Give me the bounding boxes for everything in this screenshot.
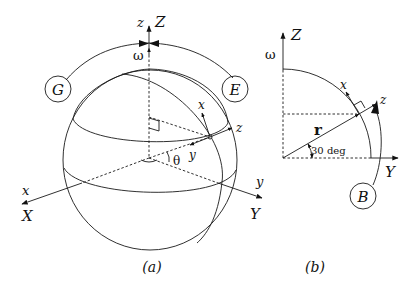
label-Y-b: Y bbox=[385, 163, 397, 181]
label-30deg: 30 deg bbox=[311, 145, 346, 156]
label-G: G bbox=[52, 81, 64, 99]
label-Y: Y bbox=[250, 205, 262, 223]
label-x-body: x bbox=[22, 183, 30, 198]
panel-a-sphere-diagram: G E z Z ω x z y θ x X bbox=[21, 13, 264, 275]
rotation-arc bbox=[66, 43, 233, 80]
Y-axis-dashed bbox=[149, 158, 218, 183]
label-Z-top: Z bbox=[154, 13, 166, 31]
X-axis-arrow bbox=[22, 183, 82, 204]
circle-B: B bbox=[350, 183, 376, 209]
panel-b-quarter-diagram: Z ω Y B r z x 30 deg (b) bbox=[265, 26, 398, 275]
caption-a: (a) bbox=[142, 259, 161, 275]
sphere-outline bbox=[63, 70, 237, 250]
theta-arc bbox=[167, 152, 169, 162]
label-r: r bbox=[314, 121, 323, 139]
label-y-local: y bbox=[188, 148, 196, 162]
latitude-radius-dashed bbox=[149, 117, 210, 137]
figure-canvas: G E z Z ω x z y θ x X bbox=[0, 0, 415, 293]
label-x-b: x bbox=[340, 78, 347, 92]
rotation-arc-b bbox=[373, 108, 381, 185]
label-z-top: z bbox=[136, 15, 144, 30]
label-omega-b: ω bbox=[265, 47, 276, 62]
local-z-arrow bbox=[210, 128, 232, 137]
label-X: X bbox=[21, 207, 34, 225]
circle-E: E bbox=[222, 76, 248, 102]
rotation-arrowhead-icon bbox=[371, 100, 379, 114]
label-z-local: z bbox=[235, 121, 243, 135]
upper-latitude-back bbox=[73, 69, 228, 123]
caption-b: (b) bbox=[305, 259, 325, 275]
label-B: B bbox=[356, 188, 368, 206]
label-Z-b: Z bbox=[290, 26, 302, 44]
label-E: E bbox=[229, 81, 241, 99]
label-z-b: z bbox=[379, 93, 387, 107]
label-x-local: x bbox=[198, 98, 205, 112]
local-y-arrow bbox=[190, 137, 210, 145]
X-axis-dashed bbox=[82, 158, 149, 183]
right-angle-marker bbox=[149, 118, 159, 131]
label-omega-a: ω bbox=[133, 48, 144, 63]
circle-G: G bbox=[45, 76, 71, 102]
label-y-body: y bbox=[255, 174, 264, 189]
label-theta: θ bbox=[173, 154, 180, 168]
